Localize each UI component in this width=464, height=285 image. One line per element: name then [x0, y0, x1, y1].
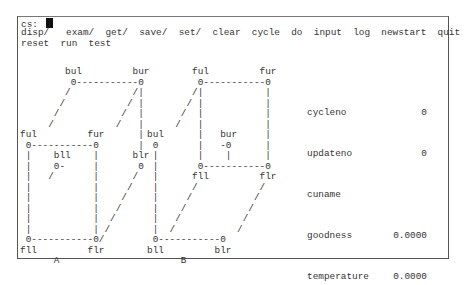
menu-item-input[interactable]: input: [314, 27, 342, 38]
stats-panel: cycleno 0 updateno 0 cuname goodness 0.0…: [307, 87, 427, 285]
stat-label: updateno: [307, 149, 352, 169]
stat-label: cuname: [307, 190, 341, 210]
menu-item-cycle[interactable]: cycle: [252, 27, 280, 38]
menu-item-reset[interactable]: reset: [21, 38, 49, 49]
menu-item-clear[interactable]: clear: [212, 27, 240, 38]
menu-item-quit[interactable]: quit: [438, 27, 461, 38]
stat-label: cycleno: [307, 108, 346, 128]
necker-cube-a: bul bur 0-----------0 / /| / / | / / | /…: [20, 67, 149, 267]
stat-label: goodness: [307, 231, 352, 251]
stat-value: 0: [421, 108, 427, 128]
menu-item-set[interactable]: set/: [179, 27, 202, 38]
stat-goodness: goodness 0.0000: [307, 231, 427, 251]
menu-item-get[interactable]: get/: [105, 27, 128, 38]
stat-temperature: temperature 0.0000: [307, 272, 427, 285]
stat-cycleno: cycleno 0: [307, 108, 427, 128]
stat-value: 0.0000: [393, 231, 427, 251]
menu-item-newstart[interactable]: newstart: [381, 27, 426, 38]
stat-value: 0.0000: [393, 272, 427, 285]
menu-item-test[interactable]: test: [89, 38, 112, 49]
menu-item-disp[interactable]: disp/: [21, 27, 49, 38]
menu-item-do[interactable]: do: [291, 27, 302, 38]
necker-cube-b: ful fur 0-----------0 /| | / | | / | | /…: [147, 67, 276, 267]
menu-item-log[interactable]: log: [353, 27, 370, 38]
stat-updateno: updateno 0: [307, 149, 427, 169]
terminal-window: cs: disp/ exam/ get/ save/ set/ clear cy…: [17, 16, 449, 259]
menu-item-save[interactable]: save/: [139, 27, 167, 38]
stat-label: temperature: [307, 272, 369, 285]
menu-item-exam[interactable]: exam/: [66, 27, 94, 38]
stat-value: 0: [421, 149, 427, 169]
menu-item-run[interactable]: run: [60, 38, 77, 49]
stat-cuname: cuname: [307, 190, 427, 210]
command-menu: disp/ exam/ get/ save/ set/ clear cycle …: [21, 28, 460, 49]
